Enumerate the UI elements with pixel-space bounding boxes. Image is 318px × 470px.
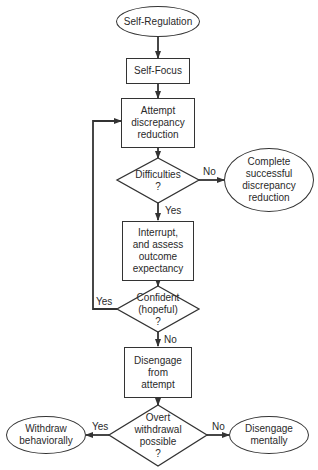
node-self-focus-label: Self-Focus <box>134 65 182 77</box>
decision-difficulties-label: Difficulties ? <box>135 169 180 193</box>
node-disengage-attempt-label: Disengage from attempt <box>134 355 182 391</box>
decision-confident-label: Confident (hopeful) ? <box>137 292 180 328</box>
edge-label-confident-yes: Yes <box>96 296 112 308</box>
node-interrupt-assess: Interrupt, and assess outcome expectancy <box>122 221 194 281</box>
decision-confident: Confident (hopeful) ? <box>117 287 199 332</box>
node-withdraw-behaviorally: Withdraw behaviorally <box>6 416 86 454</box>
node-self-regulation: Self-Regulation <box>116 6 200 37</box>
node-self-focus: Self-Focus <box>126 58 190 84</box>
edge-label-difficulties-yes: Yes <box>165 205 181 217</box>
edge-label-difficulties-no: No <box>203 166 216 178</box>
node-withdraw-label: Withdraw behaviorally <box>19 423 72 447</box>
decision-overt-withdrawal: Overt withdrawal possible ? <box>109 407 207 465</box>
node-disengage-from-attempt: Disengage from attempt <box>124 347 192 398</box>
edge-label-overt-no: No <box>212 421 225 433</box>
node-complete-label: Complete successful discrepancy reductio… <box>242 156 295 204</box>
decision-difficulties: Difficulties ? <box>117 158 199 203</box>
node-interrupt-label: Interrupt, and assess outcome expectancy <box>133 227 184 275</box>
edge-label-overt-yes: Yes <box>92 421 108 433</box>
node-attempt-label: Attempt discrepancy reduction <box>131 105 184 141</box>
decision-overt-label: Overt withdrawal possible ? <box>134 412 181 460</box>
node-self-regulation-label: Self-Regulation <box>124 16 192 28</box>
node-disengage-mentally: Disengage mentally <box>229 416 309 454</box>
edge-confident-yes-loop <box>93 121 121 309</box>
node-attempt-discrepancy-reduction: Attempt discrepancy reduction <box>121 98 195 148</box>
node-disengage-mentally-label: Disengage mentally <box>245 423 293 447</box>
node-complete-reduction: Complete successful discrepancy reductio… <box>224 148 314 212</box>
edge-label-confident-no: No <box>164 334 177 346</box>
